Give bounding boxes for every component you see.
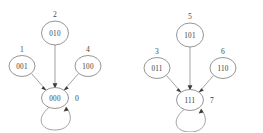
node-100-label: 100 <box>82 63 94 71</box>
edge-group-right <box>167 47 214 93</box>
loop-000-label: 0 <box>75 94 79 103</box>
node-111[interactable]: 111 <box>177 90 204 111</box>
edge-group-left <box>32 45 79 91</box>
node-010-label: 010 <box>49 30 61 38</box>
node-011-label: 011 <box>151 65 162 73</box>
node-101-label: 101 <box>184 32 196 40</box>
node-000-label: 000 <box>49 95 61 103</box>
node-101-index: 5 <box>188 12 192 21</box>
node-110[interactable]: 110 <box>210 58 236 79</box>
node-100-index: 4 <box>86 45 90 54</box>
cluster-left: 0 001 1 010 2 100 4 000 <box>9 10 101 131</box>
diagram-canvas: 0 001 1 010 2 100 4 000 <box>0 0 263 132</box>
cluster-right: 7 011 3 101 5 110 6 111 <box>144 12 236 133</box>
node-101[interactable]: 101 <box>177 23 204 47</box>
node-001-index: 1 <box>20 45 24 54</box>
node-100[interactable]: 100 <box>75 56 101 77</box>
node-011-index: 3 <box>155 47 159 56</box>
node-010[interactable]: 010 <box>42 21 69 45</box>
node-010-index: 2 <box>53 10 57 19</box>
node-001[interactable]: 001 <box>9 56 35 77</box>
node-011[interactable]: 011 <box>144 58 170 79</box>
state-transition-diagram: 0 001 1 010 2 100 4 000 <box>0 0 263 132</box>
node-110-label: 110 <box>217 65 228 73</box>
loop-111-label: 7 <box>210 96 214 105</box>
loop-000-arrowhead <box>64 106 69 111</box>
node-000[interactable]: 000 <box>42 88 69 109</box>
node-001-label: 001 <box>16 63 28 71</box>
loop-111-arrowhead <box>199 108 204 113</box>
node-110-index: 6 <box>221 47 225 56</box>
node-111-label: 111 <box>185 97 196 105</box>
